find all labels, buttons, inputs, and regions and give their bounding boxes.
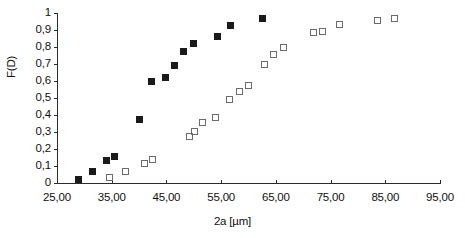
x-axis-tick-label: 95,00 — [426, 192, 454, 204]
data-point-open-squares — [199, 119, 206, 126]
data-point-filled-squares — [89, 168, 96, 175]
data-point-open-squares — [374, 17, 381, 24]
data-point-filled-squares — [259, 15, 266, 22]
data-point-open-squares — [149, 156, 156, 163]
data-point-open-squares — [336, 21, 343, 28]
data-point-filled-squares — [227, 22, 234, 29]
y-axis-tick — [54, 47, 58, 48]
x-axis-tick-label: 35,00 — [98, 192, 126, 204]
data-point-open-squares — [191, 128, 198, 135]
y-axis-tick-label: 0,9 — [36, 24, 51, 36]
y-axis-title: F(D) — [6, 56, 18, 78]
x-axis-tick — [331, 180, 332, 184]
y-axis-tick — [54, 30, 58, 31]
x-axis-tick-label: 25,00 — [43, 192, 71, 204]
data-point-filled-squares — [103, 157, 110, 164]
y-axis-tick-label: 0,8 — [36, 41, 51, 53]
plot-area — [57, 13, 440, 183]
x-axis-tick-label: 65,00 — [262, 192, 290, 204]
x-axis-tick — [440, 180, 441, 184]
x-axis-tick-label: 55,00 — [207, 192, 235, 204]
y-axis-tick-label: 0,4 — [36, 109, 51, 121]
data-point-filled-squares — [148, 78, 155, 85]
x-axis-tick — [221, 180, 222, 184]
x-axis-tick-label: 75,00 — [317, 192, 345, 204]
y-axis-tick-label: 0,7 — [36, 58, 51, 70]
y-axis-tick — [54, 64, 58, 65]
data-point-open-squares — [141, 160, 148, 167]
y-axis-tick-label: 0 — [45, 177, 51, 189]
x-axis-line — [57, 183, 441, 184]
x-axis-tick — [166, 180, 167, 184]
y-axis-tick-label: 0,2 — [36, 143, 51, 155]
y-axis-tick — [54, 81, 58, 82]
x-axis-tick — [276, 180, 277, 184]
y-axis-tick — [54, 132, 58, 133]
y-axis-tick-label: 0,5 — [36, 92, 51, 104]
y-axis-tick — [54, 149, 58, 150]
y-axis-tick-label: 1 — [45, 7, 51, 19]
data-point-open-squares — [270, 51, 277, 58]
y-axis-tick-label: 0,1 — [36, 160, 51, 172]
y-axis-tick-label: 0,6 — [36, 75, 51, 87]
scatter-chart: F(D) 10,90,80,70,60,50,40,30,20,10 25,00… — [0, 0, 465, 238]
data-point-open-squares — [245, 82, 252, 89]
data-point-filled-squares — [162, 74, 169, 81]
data-point-open-squares — [310, 29, 317, 36]
x-axis-tick-label: 45,00 — [153, 192, 181, 204]
data-point-open-squares — [212, 114, 219, 121]
data-point-open-squares — [261, 61, 268, 68]
y-axis-tick — [54, 115, 58, 116]
data-point-filled-squares — [136, 116, 143, 123]
data-point-open-squares — [319, 28, 326, 35]
data-point-filled-squares — [190, 40, 197, 47]
x-axis-title: 2a [µm] — [0, 216, 465, 228]
x-axis-tick — [385, 180, 386, 184]
data-point-open-squares — [280, 44, 287, 51]
x-axis-tick — [57, 180, 58, 184]
data-point-filled-squares — [75, 176, 82, 183]
data-point-filled-squares — [111, 153, 118, 160]
data-point-filled-squares — [180, 48, 187, 55]
data-point-open-squares — [106, 174, 113, 181]
data-point-filled-squares — [214, 33, 221, 40]
data-point-open-squares — [391, 15, 398, 22]
data-point-open-squares — [236, 88, 243, 95]
y-axis-tick — [54, 166, 58, 167]
data-point-filled-squares — [171, 62, 178, 69]
y-axis-tick-label: 0,3 — [36, 126, 51, 138]
y-axis-tick — [54, 13, 58, 14]
data-point-open-squares — [226, 96, 233, 103]
y-axis-tick — [54, 98, 58, 99]
x-axis-tick-label: 85,00 — [371, 192, 399, 204]
data-point-open-squares — [122, 168, 129, 175]
